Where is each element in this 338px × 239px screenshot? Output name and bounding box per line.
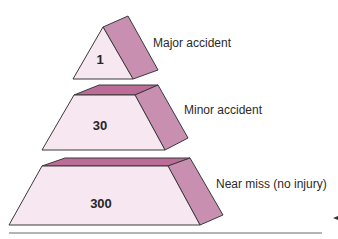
tier-major-accident-shape	[73, 16, 158, 79]
tier-near-miss-shape	[9, 158, 223, 225]
tier-value-major: 1	[80, 52, 120, 67]
tier-value-near-miss: 300	[81, 196, 121, 211]
tier-value-minor: 30	[80, 118, 120, 133]
tier-label-minor: Minor accident	[184, 103, 262, 117]
tier-label-near-miss: Near miss (no injury)	[216, 177, 327, 191]
tier-label-major: Major accident	[153, 36, 231, 50]
arrow-mark-icon	[333, 216, 338, 220]
tier-top-face	[42, 158, 190, 166]
